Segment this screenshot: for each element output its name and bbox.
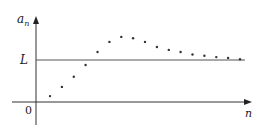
data-point <box>73 76 75 78</box>
data-point <box>179 51 181 53</box>
data-point <box>108 41 110 43</box>
y-axis-label: an <box>17 12 29 28</box>
data-point <box>168 49 170 51</box>
data-point <box>144 41 146 43</box>
data-point <box>120 36 122 38</box>
data-point <box>239 58 241 60</box>
data-points <box>49 36 241 98</box>
data-point <box>215 56 217 58</box>
data-point <box>156 46 158 48</box>
data-point <box>84 64 86 66</box>
x-axis-label: n <box>245 107 252 120</box>
y-axis-arrow-icon <box>33 16 39 24</box>
data-point <box>227 57 229 59</box>
data-point <box>191 53 193 55</box>
origin-label: 0 <box>25 104 32 117</box>
limit-label: L <box>19 53 28 67</box>
data-point <box>203 55 205 57</box>
axes <box>12 16 252 125</box>
data-point <box>96 51 98 53</box>
sequence-convergence-chart: an L 0 n <box>0 0 263 134</box>
data-point <box>132 37 134 39</box>
data-point <box>49 95 51 97</box>
x-axis-arrow-icon <box>244 99 252 105</box>
data-point <box>61 86 63 88</box>
